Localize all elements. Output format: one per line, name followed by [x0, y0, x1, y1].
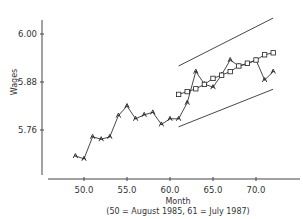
plot-area	[73, 18, 275, 161]
square-marker	[211, 76, 215, 80]
triangle-marker	[168, 116, 172, 121]
axes	[42, 20, 300, 179]
x-axis-label: Month	[165, 197, 190, 206]
x-ticks: 50.055.060.065.070.0	[75, 177, 266, 195]
square-marker	[271, 51, 275, 55]
triangle-marker	[90, 134, 94, 139]
triangle-marker	[99, 137, 103, 142]
square-marker	[245, 61, 249, 65]
triangle-marker	[125, 104, 129, 109]
series-lower-bound	[179, 89, 274, 127]
triangle-marker	[82, 156, 86, 161]
series-actual	[73, 58, 275, 161]
triangle-marker	[271, 69, 275, 74]
triangle-marker	[142, 112, 146, 117]
x-tick-label: 60.0	[161, 185, 180, 195]
wages-chart: 5.765.886.00 50.055.060.065.070.0 Wages …	[0, 0, 303, 219]
x-tick-label: 55.0	[118, 185, 137, 195]
square-marker	[254, 58, 258, 62]
square-marker	[194, 87, 198, 91]
series-line	[75, 60, 273, 159]
square-marker	[219, 73, 223, 77]
triangle-marker	[108, 134, 112, 139]
y-tick-label: 6.00	[18, 29, 37, 39]
triangle-marker	[176, 116, 180, 121]
square-marker	[237, 64, 241, 68]
square-marker	[176, 92, 180, 96]
y-tick-label: 5.76	[18, 125, 37, 135]
series-line	[179, 89, 274, 127]
square-marker	[228, 69, 232, 73]
y-tick-label: 5.88	[18, 77, 37, 87]
x-axis-note: (50 = August 1985, 61 = July 1987)	[106, 207, 249, 216]
x-tick-label: 70.0	[247, 185, 266, 195]
square-marker	[202, 82, 206, 86]
triangle-marker	[151, 110, 155, 115]
x-tick-label: 65.0	[204, 185, 223, 195]
square-marker	[262, 53, 266, 57]
triangle-marker	[228, 58, 232, 63]
y-ticks: 5.765.886.00	[18, 29, 44, 135]
triangle-marker	[185, 100, 189, 105]
triangle-marker	[73, 154, 77, 159]
series-upper-bound	[179, 18, 274, 66]
square-marker	[185, 89, 189, 93]
y-axis-label: Wages	[10, 69, 19, 95]
x-tick-label: 50.0	[75, 185, 94, 195]
series-line	[179, 18, 274, 66]
